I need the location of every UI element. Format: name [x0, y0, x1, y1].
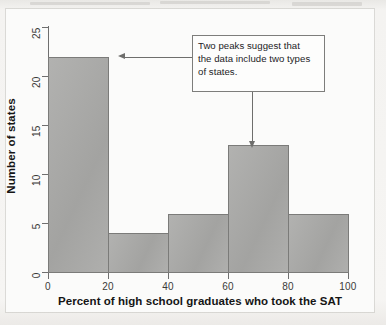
x-tick-80 [288, 273, 289, 279]
y-tick-label-20: 20 [31, 77, 42, 107]
annotation-line-3: of states. [198, 65, 320, 78]
arrow-left-icon [118, 53, 125, 59]
x-tick-0 [48, 273, 49, 279]
annotation-line-2: the data include two types [198, 52, 320, 65]
histogram-bar [168, 214, 229, 273]
x-tick-20 [108, 273, 109, 279]
y-axis-title-text: Number of states [5, 98, 17, 194]
histogram-bar [108, 233, 169, 273]
y-tick-25 [42, 27, 48, 28]
arrow-down-icon [249, 141, 255, 148]
annotation-callout: Two peaks suggest that the data include … [192, 35, 325, 92]
figure-page: 0 5 10 15 20 25 0 20 40 60 80 100 Number… [0, 0, 386, 325]
x-tick-label-80: 80 [273, 281, 303, 292]
annotation-leader-line-horizontal [124, 57, 193, 58]
annotation-text: Two peaks suggest that the data include … [198, 39, 320, 79]
x-axis-title: Percent of high school graduates who too… [30, 295, 370, 307]
y-tick-label-15: 15 [31, 126, 42, 156]
x-tick-label-0: 0 [33, 281, 63, 292]
x-tick-label-20: 20 [93, 281, 123, 292]
y-tick-label-10: 10 [31, 175, 42, 205]
scan-artifact [160, 1, 270, 4]
x-tick-label-40: 40 [153, 281, 183, 292]
y-tick-label-25: 25 [31, 28, 42, 58]
x-tick-60 [228, 273, 229, 279]
histogram-bar [48, 57, 109, 273]
y-axis-title: Number of states [2, 46, 20, 246]
x-tick-100 [348, 273, 349, 279]
x-tick-label-100: 100 [333, 281, 363, 292]
y-tick-label-5: 5 [31, 224, 42, 254]
scan-artifact [30, 2, 150, 5]
annotation-line-1: Two peaks suggest that [198, 39, 320, 52]
annotation-leader-line-vertical [252, 92, 253, 142]
histogram-bar [288, 214, 349, 273]
x-tick-label-60: 60 [213, 281, 243, 292]
histogram-bar [228, 145, 289, 273]
scan-artifact [292, 2, 362, 6]
x-tick-40 [168, 273, 169, 279]
